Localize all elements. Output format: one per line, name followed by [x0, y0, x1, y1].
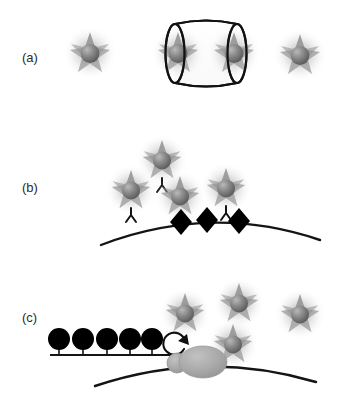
- particle-a4: [273, 28, 327, 82]
- figure-canvas: (a) (b): [0, 0, 347, 407]
- particle-a1: [63, 26, 117, 80]
- protein-head: [179, 346, 227, 378]
- panel-b-label: (b): [22, 180, 38, 195]
- particle-a2: [151, 26, 205, 80]
- particle-c4: [274, 288, 326, 340]
- particle-a3: [207, 26, 261, 80]
- ligand-head-3: [96, 328, 118, 350]
- ligand-head-1: [48, 328, 70, 350]
- panel-a-label: (a): [22, 50, 38, 65]
- particle-c1: [159, 287, 211, 339]
- panel-c-label: (c): [22, 310, 37, 325]
- ligand-head-5: [141, 328, 163, 350]
- ligand-head-2: [72, 328, 94, 350]
- ligand-head-4: [119, 328, 141, 350]
